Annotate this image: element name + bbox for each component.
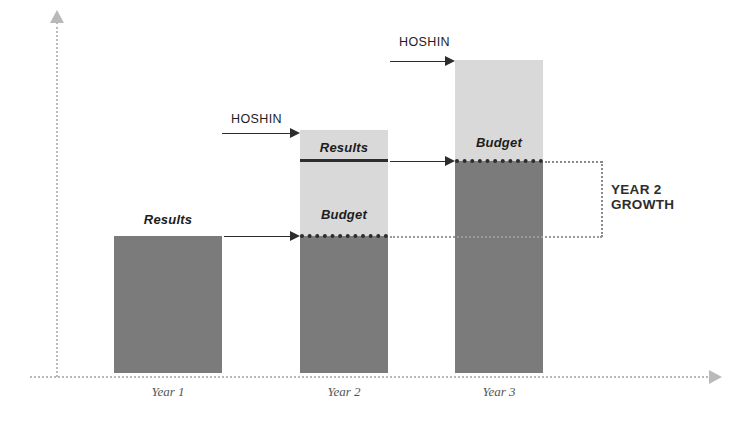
bar-year-1-dark-segment	[114, 236, 222, 373]
growth-bracket-side	[601, 161, 603, 237]
bar-year-3-dark-segment	[455, 161, 543, 373]
growth-label-line-1: YEAR 2	[611, 182, 662, 197]
connector-year2-to-year3-head-icon	[445, 156, 455, 166]
guide-line-year2-budget-level	[390, 236, 602, 238]
bar-year-2-results-rule	[300, 159, 388, 162]
x-axis-label-year-1: Year 1	[114, 384, 222, 400]
bar-year-2-budget-rule	[300, 234, 388, 238]
bar-year-2-budget-label: Budget	[300, 207, 388, 222]
chart-canvas: Results Results Budget Budget HOSHIN HOS…	[0, 0, 750, 421]
growth-bracket-top	[545, 161, 602, 163]
hoshin-arrow-2-head-icon	[445, 56, 455, 66]
x-axis-label-year-2: Year 2	[296, 384, 392, 400]
hoshin-arrow-1-line	[222, 133, 290, 134]
bar-year-1-results-label: Results	[114, 212, 222, 227]
bar-year-1[interactable]	[114, 236, 222, 373]
bar-year-3-budget-label: Budget	[455, 135, 543, 150]
y-axis-arrow-icon	[50, 10, 64, 23]
x-axis-line	[30, 376, 712, 378]
x-axis-arrow-icon	[709, 370, 722, 384]
bar-year-3[interactable]	[455, 60, 543, 373]
growth-label: YEAR 2 GROWTH	[611, 182, 674, 212]
bar-year-2-results-label: Results	[300, 140, 388, 155]
hoshin-arrow-2-line	[390, 61, 445, 62]
y-axis-line	[56, 22, 58, 377]
connector-year1-to-year2-line	[224, 236, 290, 237]
hoshin-arrow-1-head-icon	[290, 128, 300, 138]
connector-year1-to-year2-head-icon	[290, 231, 300, 241]
bar-year-2-dark-segment	[300, 236, 388, 373]
hoshin-label-1: HOSHIN	[231, 112, 282, 126]
bar-year-2[interactable]	[300, 130, 388, 373]
hoshin-label-2: HOSHIN	[399, 35, 450, 49]
x-axis-label-year-3: Year 3	[451, 384, 547, 400]
connector-year2-to-year3-line	[390, 161, 445, 162]
bar-year-3-budget-rule	[455, 159, 543, 163]
growth-label-line-2: GROWTH	[611, 197, 674, 212]
